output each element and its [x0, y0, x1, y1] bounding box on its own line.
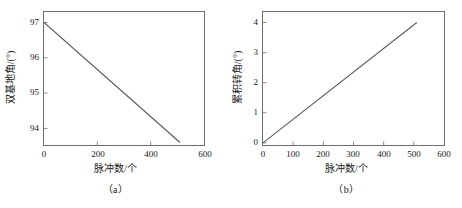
ytick-label-b-3: 3 — [254, 48, 259, 57]
panel-caption-a: （a） — [0, 184, 231, 195]
chart-panel-b: 4 3 2 1 0 0 100 200 300 400 500 600 脉冲数/… — [231, 0, 462, 208]
y-axis-title-b: 累积转角/(°) — [232, 50, 243, 106]
ytick-label-b-2: 2 — [254, 78, 259, 87]
plot-area-b — [262, 11, 445, 146]
ytick-label-a-94: 94 — [30, 124, 39, 133]
xtick-label-b-100: 100 — [286, 150, 300, 159]
ytick-label-a-95: 95 — [30, 88, 39, 97]
xtick-label-a-200: 200 — [91, 150, 105, 159]
xtick-label-a-400: 400 — [144, 150, 158, 159]
x-axis-title-a: 脉冲数/个 — [0, 163, 231, 174]
plot-area-a — [43, 11, 205, 146]
y-axis-title-a: 双基地角/(°) — [5, 50, 16, 106]
panel-caption-b: （b） — [231, 184, 462, 195]
data-line-cumulative-rotation — [263, 23, 417, 143]
figure-container: 97 96 95 94 0 200 400 600 脉冲数/个 双基地角/(°)… — [0, 0, 462, 208]
xtick-label-b-500: 500 — [407, 150, 421, 159]
xtick-label-b-200: 200 — [316, 150, 330, 159]
xtick-label-b-300: 300 — [346, 150, 360, 159]
x-axis-title-b: 脉冲数/个 — [231, 163, 462, 174]
ytick-label-b-4: 4 — [254, 18, 259, 27]
chart-panel-a: 97 96 95 94 0 200 400 600 脉冲数/个 双基地角/(°)… — [0, 0, 231, 208]
xtick-label-b-0: 0 — [261, 150, 266, 159]
xtick-label-a-600: 600 — [198, 150, 212, 159]
xtick-label-b-400: 400 — [377, 150, 391, 159]
data-line-bistatic-angle — [44, 23, 180, 143]
plot-svg-b — [263, 12, 444, 145]
xtick-label-b-600: 600 — [437, 150, 451, 159]
ytick-label-a-97: 97 — [30, 18, 39, 27]
xtick-label-a-0: 0 — [42, 150, 47, 159]
ytick-label-b-0: 0 — [254, 138, 259, 147]
plot-svg-a — [44, 12, 204, 145]
ytick-label-a-96: 96 — [30, 53, 39, 62]
ytick-label-b-1: 1 — [254, 108, 259, 117]
